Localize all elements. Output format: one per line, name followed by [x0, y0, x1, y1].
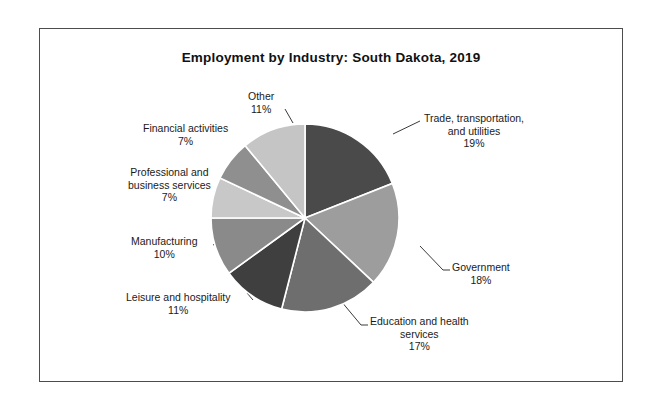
slice-label-professional-line1: Professional and	[128, 166, 211, 179]
pie-svg	[210, 123, 400, 313]
slice-label-leisure: Leisure and hospitality 11%	[126, 291, 230, 316]
chart-title: Employment by Industry: South Dakota, 20…	[0, 50, 662, 65]
slice-label-manufacturing-line1: Manufacturing	[131, 235, 198, 248]
pie-chart	[210, 123, 400, 313]
slice-label-government-line1: Government	[452, 261, 510, 274]
slice-label-education: Education and health services 17%	[370, 315, 469, 353]
slice-label-leisure-line1: Leisure and hospitality	[126, 291, 230, 304]
slice-label-other-value: 11%	[248, 103, 274, 116]
slice-label-trade-value: 19%	[424, 137, 524, 150]
slice-label-education-value: 17%	[370, 340, 469, 353]
slice-label-trade-line1: Trade, transportation,	[424, 112, 524, 125]
slice-label-manufacturing: Manufacturing 10%	[131, 235, 198, 260]
slice-label-financial: Financial activities 7%	[143, 122, 228, 147]
slice-label-education-line1: Education and health	[370, 315, 469, 328]
slice-label-education-line2: services	[370, 328, 469, 341]
pie-slices	[211, 124, 399, 312]
slice-label-other-line1: Other	[248, 90, 274, 103]
slice-label-financial-value: 7%	[143, 135, 228, 148]
slice-label-professional: Professional and business services 7%	[128, 166, 211, 204]
slice-label-government-value: 18%	[452, 274, 510, 287]
slice-label-leisure-value: 11%	[126, 304, 230, 317]
chart-page: Employment by Industry: South Dakota, 20…	[0, 0, 662, 406]
slice-label-other: Other 11%	[248, 90, 274, 115]
slice-label-trade-line2: and utilities	[424, 125, 524, 138]
slice-label-professional-value: 7%	[128, 191, 211, 204]
slice-label-government: Government 18%	[452, 261, 510, 286]
slice-label-trade: Trade, transportation, and utilities 19%	[424, 112, 524, 150]
slice-label-professional-line2: business services	[128, 179, 211, 192]
slice-label-manufacturing-value: 10%	[131, 248, 198, 261]
slice-label-financial-line1: Financial activities	[143, 122, 228, 135]
